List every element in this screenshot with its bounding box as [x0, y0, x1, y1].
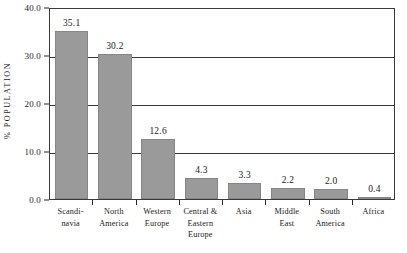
x-axis-category-label-line: Africa	[352, 206, 395, 218]
bar-slot: 12.6	[137, 9, 180, 199]
bar-value-label: 30.2	[93, 41, 136, 51]
y-axis-tick-label: 10.0	[24, 147, 41, 157]
y-axis-tick-mark	[44, 104, 49, 105]
bar-slot: 3.3	[223, 9, 266, 199]
x-axis-category-label: Scandi-navia	[49, 206, 92, 229]
bar[interactable]	[55, 31, 89, 199]
bar[interactable]	[358, 197, 392, 199]
bar-slot: 0.4	[353, 9, 396, 199]
bar-value-label: 0.4	[353, 184, 396, 194]
y-axis-tick-mark	[44, 152, 49, 153]
x-axis-category-label-line: America	[92, 218, 135, 230]
y-axis-tick-label: 30.0	[24, 51, 41, 61]
plot-area: 35.130.212.64.33.32.22.00.4	[49, 8, 395, 200]
bar-value-label: 4.3	[180, 165, 223, 175]
bar-value-label: 3.3	[223, 170, 266, 180]
x-axis-tick-mark	[352, 200, 353, 205]
x-axis-tick-mark	[265, 200, 266, 205]
x-axis-category-label-line: navia	[49, 218, 92, 230]
x-axis-category-label-line: Eastern	[179, 218, 222, 230]
bar-value-label: 2.2	[266, 175, 309, 185]
x-axis-tick-mark	[136, 200, 137, 205]
bar[interactable]	[141, 139, 175, 199]
y-axis-tick-label: 20.0	[24, 99, 41, 109]
x-axis-category-label: NorthAmerica	[92, 206, 135, 229]
x-axis-category-label-line: Central &	[179, 206, 222, 218]
bar-slot: 4.3	[180, 9, 223, 199]
bar-slot: 2.0	[310, 9, 353, 199]
x-axis-category-labels: Scandi-naviaNorthAmericaWesternEuropeCen…	[49, 206, 395, 252]
x-axis-tick-mark	[179, 200, 180, 205]
x-axis-category-label: Central &EasternEurope	[179, 206, 222, 241]
x-axis-category-label-line: North	[92, 206, 135, 218]
x-axis-category-label: MiddleEast	[265, 206, 308, 229]
bar-value-label: 12.6	[137, 126, 180, 136]
y-axis-tick-mark	[44, 200, 49, 201]
bar-slot: 2.2	[266, 9, 309, 199]
bar-slot: 30.2	[93, 9, 136, 199]
bar[interactable]	[271, 188, 305, 199]
x-axis-category-label-line: Asia	[222, 206, 265, 218]
bar-slot: 35.1	[50, 9, 93, 199]
x-axis-category-label-line: Europe	[136, 218, 179, 230]
x-axis-category-label-line: Western	[136, 206, 179, 218]
x-axis-category-label: SouthAmerica	[309, 206, 352, 229]
bar[interactable]	[98, 54, 132, 199]
x-axis-tick-mark	[309, 200, 310, 205]
bars-layer: 35.130.212.64.33.32.22.00.4	[50, 9, 394, 199]
y-axis-title-text: % POPULATION	[4, 61, 13, 138]
x-axis-category-label: Asia	[222, 206, 265, 218]
x-axis-category-label-line: America	[309, 218, 352, 230]
y-axis-tick-mark	[44, 56, 49, 57]
x-axis-tick-mark	[92, 200, 93, 205]
y-axis-tick-mark	[44, 8, 49, 9]
bar[interactable]	[228, 183, 262, 199]
y-axis-tick-labels: 0.010.020.030.040.0	[16, 8, 44, 200]
y-axis-tick-label: 0.0	[29, 195, 41, 205]
bar[interactable]	[314, 189, 348, 199]
x-axis-category-label-line: East	[265, 218, 308, 230]
x-axis-category-label: WesternEurope	[136, 206, 179, 229]
x-axis-tick-mark	[222, 200, 223, 205]
x-axis-category-label-line: Scandi-	[49, 206, 92, 218]
x-axis-category-label-line: Europe	[179, 229, 222, 241]
bar-chart: % POPULATION 0.010.020.030.040.0 35.130.…	[0, 0, 407, 253]
bar[interactable]	[185, 178, 219, 199]
x-axis-category-label-line: Middle	[265, 206, 308, 218]
x-axis-category-label: Africa	[352, 206, 395, 218]
y-axis-tick-label: 40.0	[24, 3, 41, 13]
y-axis-title: % POPULATION	[0, 0, 16, 200]
bar-value-label: 35.1	[50, 18, 93, 28]
x-axis-category-label-line: South	[309, 206, 352, 218]
bar-value-label: 2.0	[310, 176, 353, 186]
